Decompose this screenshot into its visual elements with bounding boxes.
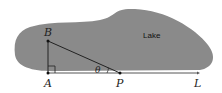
lake-shape <box>15 9 213 71</box>
point-B <box>47 40 50 43</box>
label-lake: Lake <box>143 31 161 40</box>
point-P <box>119 72 122 75</box>
label-A: A <box>43 77 52 90</box>
label-B: B <box>43 26 52 39</box>
point-A <box>47 72 50 75</box>
label-P: P <box>115 77 124 90</box>
label-L: L <box>193 77 201 90</box>
label-theta: θ <box>95 65 101 75</box>
arrow-L <box>197 72 200 75</box>
lake-diagram: B A P L θ Lake <box>0 0 222 93</box>
